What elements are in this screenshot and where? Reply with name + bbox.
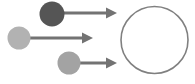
medium-source-circle [58,52,81,75]
light-source-circle [8,27,31,50]
diagram-canvas [0,0,195,84]
dark-source-circle [40,2,65,27]
diagram-svg [0,0,195,84]
